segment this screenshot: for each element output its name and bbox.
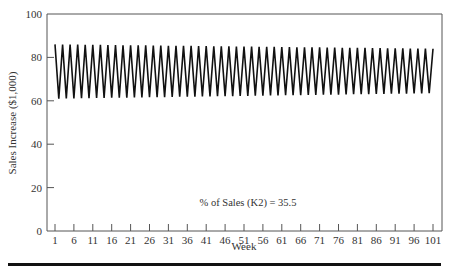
x-tick-label: 66 xyxy=(295,234,307,246)
x-tick-label: 96 xyxy=(409,234,421,246)
bottom-rule xyxy=(8,263,441,266)
x-tick-label: 1 xyxy=(52,234,58,246)
x-tick-label: 36 xyxy=(182,234,194,246)
x-tick-label: 101 xyxy=(425,234,442,246)
x-tick-label: 71 xyxy=(314,234,325,246)
y-tick-label: 80 xyxy=(31,51,43,63)
chart: 020406080100 161116212631364146515661667… xyxy=(0,0,454,271)
annotation: % of Sales (K2) = 35.5 xyxy=(200,197,297,209)
x-tick-label: 11 xyxy=(88,234,99,246)
x-tick-label: 91 xyxy=(390,234,401,246)
y-axis: 020406080100 xyxy=(26,8,55,237)
x-tick-label: 76 xyxy=(333,234,345,246)
x-axis-title: Week xyxy=(232,240,257,252)
x-tick-label: 81 xyxy=(352,234,363,246)
sales-increase-line xyxy=(55,44,433,98)
x-tick-label: 41 xyxy=(201,234,212,246)
x-tick-label: 86 xyxy=(371,234,383,246)
y-tick-label: 40 xyxy=(31,138,43,150)
x-tick-label: 56 xyxy=(257,234,269,246)
x-tick-label: 26 xyxy=(144,234,156,246)
y-axis-title: Sales Increase ($1,000) xyxy=(6,71,19,174)
x-tick-label: 21 xyxy=(125,234,136,246)
y-tick-label: 100 xyxy=(26,8,43,20)
y-tick-label: 60 xyxy=(31,95,43,107)
x-tick-label: 16 xyxy=(106,234,118,246)
x-tick-label: 46 xyxy=(220,234,232,246)
x-tick-label: 61 xyxy=(276,234,287,246)
x-tick-label: 6 xyxy=(71,234,77,246)
y-tick-label: 20 xyxy=(31,182,43,194)
x-tick-label: 31 xyxy=(163,234,174,246)
y-tick-label: 0 xyxy=(37,225,43,237)
